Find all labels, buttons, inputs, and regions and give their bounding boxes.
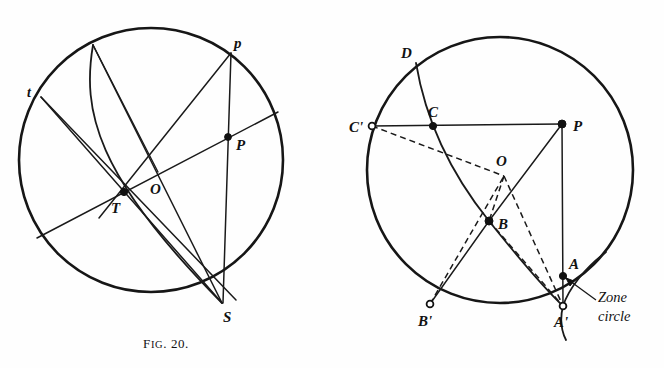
fig21-point-C-marker	[429, 122, 436, 129]
fig20-point-T-marker	[120, 188, 127, 195]
fig21-label-A: A	[568, 256, 579, 272]
fig21-dash-Cprime-O	[372, 126, 504, 176]
fig20-chord-t-S	[41, 97, 222, 303]
fig21-seg-B-Bprime	[430, 221, 489, 304]
fig21-label-D: D	[400, 45, 412, 61]
figure-20: t p P O T S FIG. 20.	[0, 0, 332, 368]
fig21-label-C: C	[428, 104, 439, 120]
figure-21: D C C' P O B B' A A' Zone circle FIG. 21…	[332, 0, 664, 368]
fig20-label-P: P	[236, 137, 246, 153]
figure-plate: t p P O T S FIG. 20.	[0, 0, 664, 368]
fig20-chord-t-through-O	[41, 97, 236, 300]
fig20-label-T: T	[111, 200, 121, 216]
figure-20-canvas: t p P O T S	[0, 0, 332, 368]
fig20-label-S: S	[223, 309, 231, 325]
figure-21-canvas: D C C' P O B B' A A' Zone circle	[332, 0, 664, 368]
fig20-chord-p-O-T	[99, 53, 231, 218]
caption-20-suffix: . 20.	[163, 336, 189, 351]
fig21-zone-label-line1: Zone	[598, 289, 628, 305]
fig21-label-B: B	[497, 216, 508, 232]
fig21-zone-label-line2: circle	[598, 308, 631, 324]
fig21-label-Bprime: B'	[417, 313, 432, 329]
caption-20-prefix: F	[143, 336, 151, 351]
fig20-point-P-marker	[225, 134, 232, 141]
fig21-point-A-marker	[559, 272, 566, 279]
fig21-point-Cprime-marker	[369, 123, 376, 130]
fig21-label-P: P	[573, 118, 583, 134]
fig21-arc-D-C-B-Aprime	[416, 63, 563, 306]
figure-20-caption: FIG. 20.	[0, 336, 332, 352]
fig21-dash-Bprime-O	[430, 176, 504, 304]
caption-20-smallcaps: IG	[151, 339, 163, 350]
fig20-chord-O-toparc	[93, 45, 158, 172]
fig21-point-B-marker	[485, 217, 493, 225]
fig21-point-P-marker	[558, 120, 566, 128]
fig21-seg-P-B	[489, 124, 562, 221]
fig21-point-Aprime-marker	[560, 303, 567, 310]
fig20-label-t: t	[27, 85, 32, 100]
fig20-label-p: p	[232, 35, 242, 51]
fig21-dash-O-Aprime	[504, 176, 563, 306]
fig21-label-O: O	[496, 153, 507, 169]
fig21-label-Aprime: A'	[553, 314, 568, 330]
fig21-label-Cprime: C'	[349, 119, 363, 135]
fig21-seg-Cprime-C-P	[372, 124, 562, 126]
fig21-point-Bprime-marker	[427, 301, 434, 308]
fig20-label-O: O	[150, 181, 161, 197]
